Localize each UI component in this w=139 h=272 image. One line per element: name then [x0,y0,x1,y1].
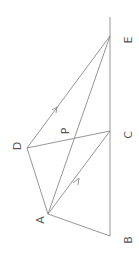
segment-AE [48,36,110,214]
label-C: C [122,131,135,139]
segment-AC [48,131,110,214]
label-D: D [11,142,24,150]
label-E: E [122,36,135,43]
segment-AD [27,148,48,214]
label-B: B [122,236,135,244]
arrow-icon-DE [52,107,57,113]
label-P: P [59,127,72,134]
geometry-diagram: E C B D A P [0,0,139,272]
segment-BA [48,214,110,236]
label-A: A [34,216,47,224]
